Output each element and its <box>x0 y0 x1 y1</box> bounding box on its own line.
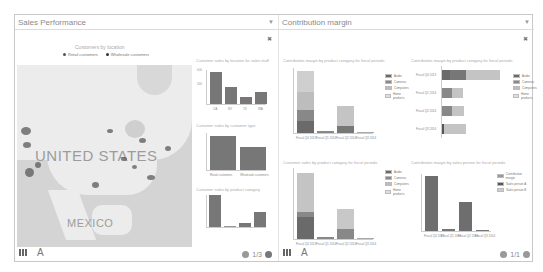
bar[interactable] <box>210 136 236 170</box>
pager: 1/3 <box>242 251 272 258</box>
stacked-bar[interactable] <box>317 237 334 239</box>
bar[interactable] <box>425 176 438 231</box>
bar[interactable] <box>254 212 266 227</box>
chart-sales-by-customer-type: Customer sales by customer type Retail c… <box>196 123 276 183</box>
horizontal-bar[interactable] <box>442 88 463 98</box>
panel-title: Contribution margin <box>282 18 352 27</box>
horizontal-bar[interactable] <box>442 106 464 116</box>
map-label-united-states: UNITED STATES <box>35 147 158 164</box>
bar[interactable] <box>476 230 489 231</box>
chart-sales-by-product: Customer sales by product category <box>196 187 276 247</box>
page-indicator: 1/1 <box>510 251 520 258</box>
collapse-caret-icon[interactable]: ▼ <box>268 19 274 25</box>
horizontal-bar[interactable] <box>442 70 500 80</box>
chart-legend: Audio Cameras Computers Home products <box>385 170 409 198</box>
panel-header: Contribution margin ▼ <box>279 15 534 30</box>
map-bubble[interactable] <box>23 142 31 148</box>
footer-toolbar: A <box>283 247 308 258</box>
next-page-button[interactable] <box>523 251 530 258</box>
legend-item[interactable]: Retail customers <box>63 52 98 57</box>
footer-toolbar: A <box>19 247 44 258</box>
close-icon[interactable]: ✖ <box>267 35 272 42</box>
bar[interactable] <box>209 195 221 227</box>
close-icon[interactable]: ✖ <box>523 35 528 42</box>
map-bubble[interactable] <box>121 157 127 161</box>
map-label-mexico: MEXICO <box>67 217 113 229</box>
map-title: Customers by location <box>75 44 124 50</box>
chart-legend: Audio Cameras Computers Home products <box>513 74 537 102</box>
previous-page-button[interactable] <box>242 251 249 258</box>
bar[interactable] <box>459 202 472 231</box>
chart-margin-by-sales-person: Contribution margin by sales person for … <box>411 160 531 250</box>
chart-sales-by-location: Customer sales by location for sales sta… <box>196 58 276 118</box>
map-bubble[interactable] <box>139 138 146 143</box>
bar[interactable] <box>442 229 455 231</box>
text-size-icon[interactable]: A <box>37 247 44 258</box>
previous-page-button[interactable] <box>500 251 507 258</box>
stacked-bar[interactable] <box>357 238 374 239</box>
chart-sales-by-category-periods: Customer sales by product category for f… <box>283 160 408 255</box>
collapse-caret-icon[interactable]: ▼ <box>524 19 530 25</box>
map-bubble[interactable] <box>165 146 171 151</box>
sales-performance-panel: Sales Performance ▼ ✖ Customers by locat… <box>15 15 279 261</box>
bar[interactable] <box>255 92 267 104</box>
customer-map[interactable]: UNITED STATES MEXICO <box>17 65 192 247</box>
horizontal-bar[interactable] <box>442 124 466 134</box>
map-bubble[interactable] <box>107 129 113 133</box>
bar[interactable] <box>240 147 266 170</box>
contribution-margin-panel: Contribution margin ▼ ✖ Contribution mar… <box>279 15 534 261</box>
panel-title: Sales Performance <box>18 18 86 27</box>
legend-item[interactable]: Wholesale customers <box>106 52 149 57</box>
chart-margin-by-category: Contribution margin by product category … <box>283 58 408 158</box>
table-view-icon[interactable] <box>19 249 27 256</box>
bar[interactable] <box>240 97 252 104</box>
map-bubble[interactable] <box>132 165 137 169</box>
map-bubble[interactable] <box>25 168 34 177</box>
bar[interactable] <box>224 226 236 227</box>
next-page-button[interactable] <box>265 251 272 258</box>
text-size-icon[interactable]: A <box>301 247 308 258</box>
map-bubble[interactable] <box>92 182 99 188</box>
stacked-bar[interactable] <box>337 106 354 133</box>
chart-margin-horizontal: Contribution margin by product category … <box>411 58 531 153</box>
page-indicator: 1/3 <box>252 251 262 258</box>
stacked-bar[interactable] <box>317 131 334 133</box>
map-bubble[interactable] <box>21 127 31 135</box>
pager: 1/1 <box>500 251 530 258</box>
chart-legend: Audio Cameras Computers Home products <box>385 74 409 102</box>
panel-header: Sales Performance ▼ <box>15 15 278 30</box>
stacked-bar[interactable] <box>337 209 354 239</box>
map-bubble[interactable] <box>147 175 155 180</box>
stacked-bar[interactable] <box>357 132 374 133</box>
chart-legend: Contribution margin Sales person A Sales… <box>497 172 531 194</box>
stacked-bar[interactable] <box>297 71 314 133</box>
bar[interactable] <box>210 72 222 104</box>
dashboard-container: Sales Performance ▼ ✖ Customers by locat… <box>14 14 533 262</box>
map-legend: Retail customers Wholesale customers <box>63 52 149 57</box>
table-view-icon[interactable] <box>283 249 291 256</box>
bar[interactable] <box>225 87 237 104</box>
stacked-bar[interactable] <box>297 173 314 239</box>
map-bubble[interactable] <box>35 162 41 168</box>
bar[interactable] <box>239 223 251 227</box>
